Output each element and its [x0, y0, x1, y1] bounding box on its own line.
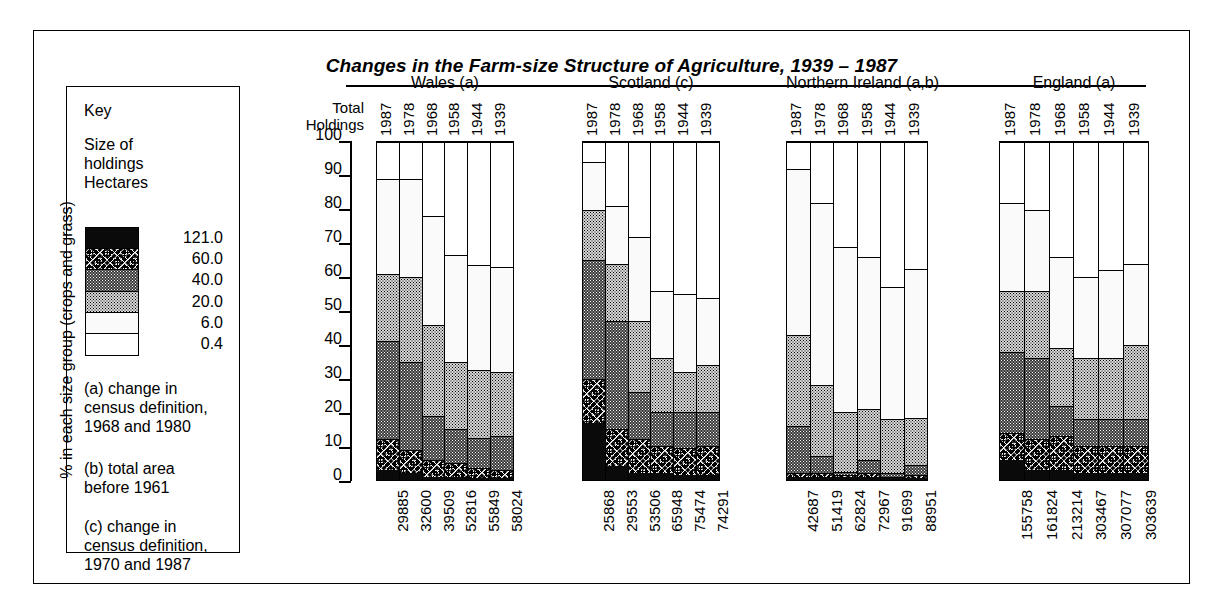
bar-1958[interactable]: 1958303467	[1074, 142, 1099, 480]
bar-segment-0.4	[651, 142, 673, 291]
bar-segment-20.0	[858, 409, 881, 460]
bar-segment-40.0	[606, 321, 628, 429]
year-label: 1939	[1125, 103, 1142, 136]
bar-segment-121.0	[445, 477, 467, 480]
bar-1968[interactable]: 1968213214	[1050, 142, 1075, 480]
total-holdings-value: 303467	[1092, 490, 1109, 540]
bar-segment-40.0	[787, 426, 810, 473]
total-holdings-wrap: 25868	[583, 490, 605, 494]
bar-segment-60.0	[1000, 433, 1024, 460]
bar-1968[interactable]: 196839509	[423, 142, 446, 480]
bar-segment-0.4	[811, 142, 834, 203]
bar-segment-0.4	[858, 142, 881, 257]
year-label-wrap: 1939	[905, 132, 928, 136]
total-holdings-value: 161824	[1043, 490, 1060, 540]
bar-segment-20.0	[1025, 291, 1049, 359]
bar-segment-60.0	[1074, 446, 1098, 473]
year-label: 1958	[858, 103, 875, 136]
panel-plot-box: 1987155758197816182419682132141958303467…	[999, 141, 1149, 481]
key-subheading: Size of holdings Hectares	[84, 135, 148, 192]
y-tick-mark-80	[339, 209, 351, 211]
total-holdings-value: 88951	[922, 490, 939, 532]
panel-wales-a: Wales (a)1987298851978326001968395091958…	[376, 141, 514, 481]
bar-1944[interactable]: 194455849	[468, 142, 491, 480]
bar-1939[interactable]: 193988951	[905, 142, 928, 480]
year-label: 1944	[881, 103, 898, 136]
year-label: 1939	[697, 103, 714, 136]
bar-1987[interactable]: 198725868	[583, 142, 606, 480]
bar-segment-121.0	[811, 477, 834, 480]
bar-1958[interactable]: 195872967	[858, 142, 882, 480]
legend-label-04: 0.4	[151, 333, 223, 354]
total-holdings-value: 51419	[828, 490, 845, 532]
bar-1939[interactable]: 193958024	[491, 142, 513, 480]
bar-segment-20.0	[468, 370, 490, 438]
year-label-wrap: 1939	[697, 132, 719, 136]
bar-segment-60.0	[491, 470, 513, 478]
total-holdings-wrap: 72967	[858, 490, 881, 494]
legend-label-40: 40.0	[151, 269, 223, 290]
y-tick-mark-60	[339, 277, 351, 279]
bar-segment-0.4	[834, 142, 857, 247]
bar-segment-6.0	[697, 298, 719, 366]
bar-1944[interactable]: 1944307077	[1099, 142, 1124, 480]
bar-segment-0.4	[1124, 142, 1148, 264]
legend-label-6: 6.0	[151, 312, 223, 333]
year-label: 1958	[1075, 103, 1092, 136]
bar-1939[interactable]: 193974291	[697, 142, 719, 480]
year-label-wrap: 1958	[1074, 132, 1098, 136]
bar-segment-20.0	[651, 358, 673, 412]
bar-segment-6.0	[629, 237, 651, 322]
bar-1987[interactable]: 1987155758	[1000, 142, 1025, 480]
bar-segment-40.0	[1124, 419, 1148, 446]
bar-segment-6.0	[674, 294, 696, 372]
total-holdings-wrap: 75474	[674, 490, 696, 494]
bar-segment-6.0	[1050, 257, 1074, 348]
bar-segment-6.0	[583, 162, 605, 209]
bar-segment-60.0	[377, 439, 399, 469]
bar-1978[interactable]: 197832600	[400, 142, 423, 480]
bar-segment-121.0	[787, 477, 810, 480]
bar-segment-6.0	[1099, 270, 1123, 358]
year-label-wrap: 1958	[651, 132, 673, 136]
bar-1958[interactable]: 195852816	[445, 142, 468, 480]
year-label: 1978	[1026, 103, 1043, 136]
panel-title: Scotland (c)	[582, 74, 720, 92]
bar-segment-121.0	[400, 473, 422, 480]
total-holdings-wrap: 52816	[445, 490, 467, 494]
bar-segment-0.4	[905, 142, 928, 269]
year-label-wrap: 1968	[423, 132, 445, 136]
y-tick-mark-30	[339, 379, 351, 381]
bar-1968[interactable]: 196853506	[629, 142, 652, 480]
bar-segment-40.0	[468, 438, 490, 468]
bar-1958[interactable]: 195865948	[651, 142, 674, 480]
year-label: 1978	[606, 103, 623, 136]
year-label-wrap: 1939	[491, 132, 513, 136]
bar-segment-60.0	[674, 448, 696, 475]
year-label: 1987	[787, 103, 804, 136]
bar-segment-40.0	[377, 341, 399, 439]
bar-1978[interactable]: 197851419	[811, 142, 835, 480]
bar-1939[interactable]: 1939303639	[1124, 142, 1148, 480]
bar-segment-121.0	[834, 477, 857, 480]
bar-1987[interactable]: 198742687	[787, 142, 811, 480]
bar-1987[interactable]: 198729885	[377, 142, 400, 480]
bar-segment-60.0	[606, 429, 628, 466]
bar-segment-60.0	[651, 446, 673, 473]
bar-1978[interactable]: 197829553	[606, 142, 629, 480]
bar-segment-40.0	[629, 392, 651, 439]
total-holdings-value: 62824	[851, 490, 868, 532]
total-holdings-value: 25868	[600, 490, 617, 532]
bar-segment-60.0	[629, 439, 651, 473]
bar-segment-6.0	[423, 216, 445, 324]
bar-segment-121.0	[1074, 473, 1098, 480]
bar-1944[interactable]: 194491699	[881, 142, 905, 480]
total-holdings-wrap: 29553	[606, 490, 628, 494]
bar-1978[interactable]: 1978161824	[1025, 142, 1050, 480]
bar-1968[interactable]: 196862824	[834, 142, 858, 480]
bar-segment-40.0	[697, 412, 719, 446]
bar-1944[interactable]: 194475474	[674, 142, 697, 480]
total-holdings-wrap: 53506	[629, 490, 651, 494]
total-holdings-wrap: 55849	[468, 490, 490, 494]
y-tick-mark-10	[339, 447, 351, 449]
